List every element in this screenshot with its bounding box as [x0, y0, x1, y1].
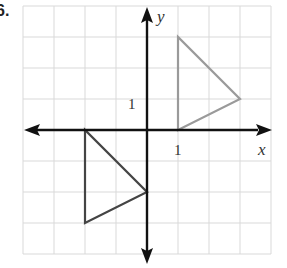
- y-tick-label: 1: [128, 96, 136, 112]
- x-tick-label: 1: [174, 142, 182, 158]
- coordinate-plane: y x 1 1: [0, 0, 287, 268]
- x-axis-label: x: [257, 140, 266, 159]
- x-axis-right-arrow-icon: [256, 124, 272, 136]
- y-axis: [141, 7, 153, 264]
- y-axis-label: y: [155, 7, 165, 26]
